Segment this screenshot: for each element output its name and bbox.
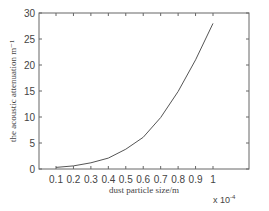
chart-canvas: 0.10.20.30.40.50.60.70.80.91051015202530… <box>0 0 269 211</box>
axis-ticks: 0.10.20.30.40.50.60.70.80.91051015202530 <box>24 8 249 186</box>
x-tick-label: 0.7 <box>154 174 168 185</box>
attenuation-line <box>56 23 213 167</box>
y-axis-label: the acoustic attenuation m⁻¹ <box>8 40 18 142</box>
x-tick-label: 0.6 <box>136 174 150 185</box>
y-tick-label: 25 <box>24 34 36 45</box>
x-axis-label: dust particle size/m <box>109 185 179 195</box>
y-tick-label: 20 <box>24 60 36 71</box>
x-tick-label: 0.1 <box>49 174 63 185</box>
x-tick-label: 0.5 <box>119 174 133 185</box>
x-tick-label: 0.8 <box>171 174 185 185</box>
y-tick-label: 30 <box>24 8 36 19</box>
y-tick-label: 5 <box>29 138 35 149</box>
data-series <box>56 23 213 167</box>
x-tick-label: 0.3 <box>84 174 98 185</box>
y-tick-label: 10 <box>24 112 36 123</box>
x-tick-label: 0.9 <box>189 174 203 185</box>
x-multiplier-label: x 10-4 <box>213 194 236 205</box>
plot-frame <box>39 13 249 169</box>
plot-axes <box>39 13 249 169</box>
x-tick-label: 0.4 <box>101 174 115 185</box>
y-tick-label: 15 <box>24 86 36 97</box>
x-tick-label: 0.2 <box>66 174 80 185</box>
y-tick-label: 0 <box>29 164 35 175</box>
x-tick-label: 1 <box>210 174 216 185</box>
